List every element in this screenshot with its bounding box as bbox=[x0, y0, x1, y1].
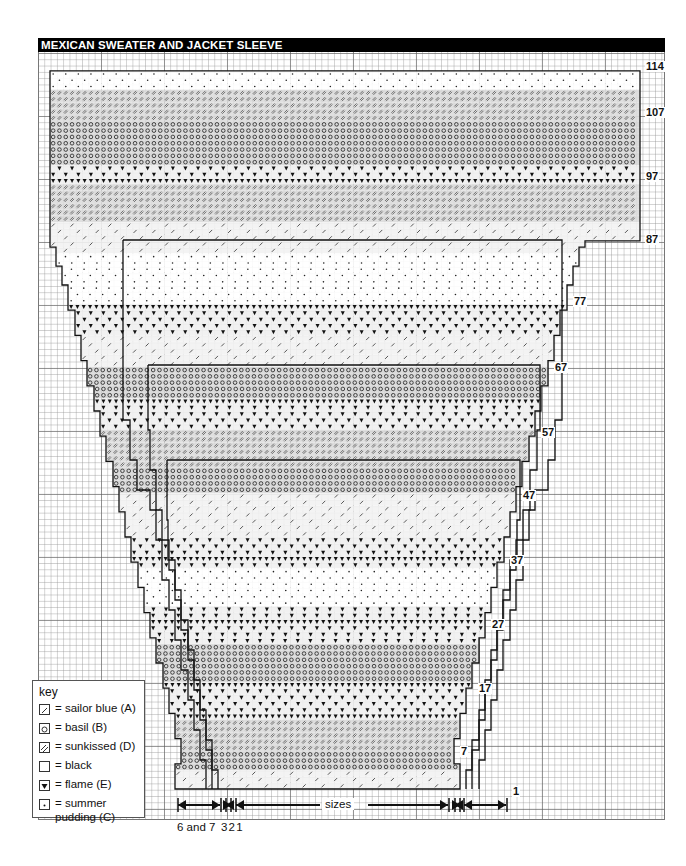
sizes-label: sizes bbox=[322, 798, 354, 810]
row-number-label: 7 bbox=[460, 746, 468, 757]
row-number-label: 87 bbox=[645, 234, 659, 245]
slash-icon bbox=[39, 704, 50, 715]
row-number-label: 57 bbox=[541, 427, 555, 438]
row-number-label: 1 bbox=[512, 786, 520, 797]
double-slash-icon bbox=[39, 742, 50, 753]
row-number-label: 27 bbox=[491, 619, 505, 630]
row-number-label: 107 bbox=[645, 107, 665, 118]
row-number-label: 97 bbox=[645, 171, 659, 182]
row-number-label: 114 bbox=[645, 61, 665, 72]
row-number-label: 17 bbox=[478, 683, 492, 694]
row-number-label: 67 bbox=[554, 362, 568, 373]
key-item-flame: = flame (E) bbox=[39, 777, 144, 796]
size-label-6-and-7: 6 and 7 bbox=[177, 821, 215, 833]
key-heading: key bbox=[39, 685, 144, 699]
key-item-basil: = basil (B) bbox=[39, 720, 144, 739]
key-item-sailor-blue: = sailor blue (A) bbox=[39, 701, 144, 720]
key-legend: key = sailor blue (A) = basil (B) = sunk… bbox=[32, 680, 145, 818]
blank-square-icon bbox=[39, 761, 50, 772]
size-label-3-2-1: 3 2 1 bbox=[221, 821, 242, 833]
triangle-icon bbox=[39, 780, 50, 791]
key-item-sunkissed: = sunkissed (D) bbox=[39, 739, 144, 758]
diamond-icon bbox=[39, 723, 50, 734]
row-number-label: 77 bbox=[573, 296, 587, 307]
row-number-label: 47 bbox=[522, 490, 536, 501]
row-number-label: 37 bbox=[510, 555, 524, 566]
dot-icon bbox=[39, 799, 50, 810]
key-item-black: = black bbox=[39, 758, 144, 777]
key-item-summer-pudding: = summer pudding (C) bbox=[39, 796, 144, 830]
